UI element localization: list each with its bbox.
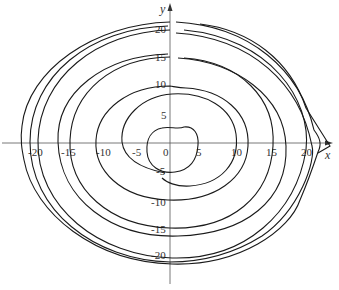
y-tick: -15 bbox=[151, 223, 166, 235]
y-tick: 20 bbox=[155, 23, 167, 35]
trajectory-ring-4b bbox=[58, 54, 286, 236]
y-tick: -10 bbox=[151, 196, 166, 208]
trajectory-ring-5 bbox=[38, 30, 307, 258]
trajectory-ring-6b bbox=[200, 24, 330, 153]
y-axis-label: y bbox=[159, 2, 166, 16]
trajectory-ring-4 bbox=[70, 57, 273, 228]
y-tick: -20 bbox=[151, 249, 166, 261]
y-tick: 10 bbox=[155, 78, 167, 90]
x-tick: 10 bbox=[231, 146, 243, 158]
x-axis-label: x bbox=[324, 148, 331, 162]
y-axis-arrow-icon bbox=[168, 3, 173, 11]
x-tick: -5 bbox=[132, 146, 142, 158]
trajectory-ring-5b bbox=[30, 26, 313, 262]
trajectory-ring-1 bbox=[147, 127, 198, 172]
x-tick: -10 bbox=[96, 146, 111, 158]
phase-portrait: x y -20 -15 -10 -5 0 5 10 15 20 20 15 10… bbox=[0, 0, 339, 290]
x-tick: -15 bbox=[61, 146, 76, 158]
y-tick: 5 bbox=[161, 109, 167, 121]
trajectory-ring-2 bbox=[122, 94, 237, 186]
x-tick: 0 bbox=[163, 146, 169, 158]
